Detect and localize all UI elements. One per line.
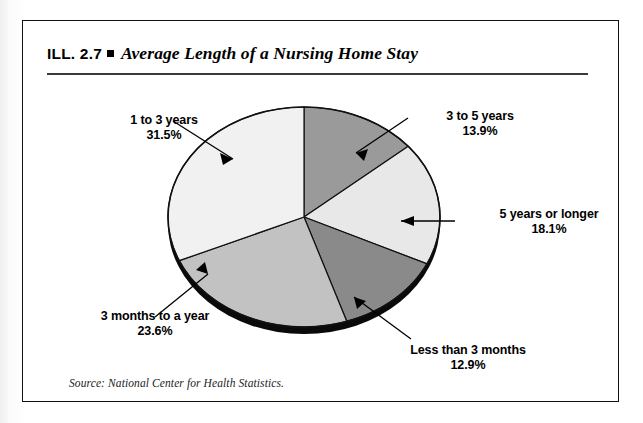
callout-label-3-months-to-a-year: 3 months to a year 23.6% (61, 309, 249, 339)
callout-label-1-to-3-years: 1 to 3 years 31.5% (89, 113, 239, 143)
scanned-page-background: ILL. 2.7Average Length of a Nursing Home… (0, 0, 643, 423)
callout-label-3-to-5-years: 3 to 5 years 13.9% (405, 109, 555, 139)
callout-title-1-to-3-years: 1 to 3 years (130, 113, 198, 127)
callout-title-less-than-3-months: Less than 3 months (410, 343, 526, 357)
figure-inner: ILL. 2.7Average Length of a Nursing Home… (23, 21, 618, 401)
source-note: Source: National Center for Health Stati… (69, 377, 284, 389)
callout-title-3-to-5-years: 3 to 5 years (446, 109, 514, 123)
callout-label-5-years-or-longer: 5 years or longer 18.1% (463, 207, 635, 237)
figure-frame: ILL. 2.7Average Length of a Nursing Home… (22, 20, 619, 402)
pie-chart: 1 to 3 years 31.5% 3 to 5 years 13.9% 5 … (23, 21, 618, 401)
callout-value-1-to-3-years: 31.5% (89, 128, 239, 143)
callout-value-3-to-5-years: 13.9% (405, 124, 555, 139)
callout-value-5-years-or-longer: 18.1% (463, 222, 635, 237)
callout-title-5-years-or-longer: 5 years or longer (499, 207, 598, 221)
callout-value-3-months-to-a-year: 23.6% (61, 324, 249, 339)
callout-title-3-months-to-a-year: 3 months to a year (101, 309, 210, 323)
callout-value-less-than-3-months: 12.9% (375, 358, 561, 373)
callout-label-less-than-3-months: Less than 3 months 12.9% (375, 343, 561, 373)
